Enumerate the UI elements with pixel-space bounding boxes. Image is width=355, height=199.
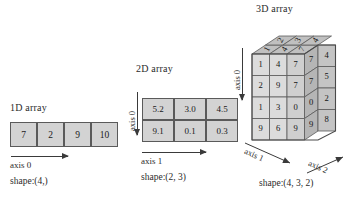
- svg-text:4: 4: [325, 50, 330, 60]
- array-3d-shape-label: shape:(4, 3, 2): [259, 178, 313, 188]
- svg-text:0: 0: [294, 102, 298, 112]
- svg-text:7: 7: [309, 54, 314, 64]
- svg-text:1: 1: [259, 102, 263, 112]
- svg-text:2: 2: [325, 93, 329, 103]
- svg-text:7: 7: [294, 80, 299, 90]
- svg-text:5: 5: [325, 71, 329, 81]
- svg-text:7: 7: [309, 76, 314, 86]
- svg-text:9: 9: [309, 119, 313, 129]
- svg-text:3: 3: [276, 102, 280, 112]
- svg-text:9: 9: [276, 80, 280, 90]
- svg-text:4: 4: [276, 59, 281, 69]
- svg-text:2: 2: [259, 80, 263, 90]
- array-3d-cube: 12437414729713096977094528: [0, 0, 355, 199]
- svg-text:9: 9: [294, 123, 298, 133]
- figure-canvas: 1D array 7 2 9 10 axis 0 shape:(4,) 2D a…: [0, 0, 355, 199]
- svg-text:9: 9: [259, 123, 263, 133]
- svg-text:6: 6: [276, 123, 281, 133]
- svg-text:1: 1: [259, 59, 263, 69]
- svg-text:7: 7: [294, 59, 299, 69]
- svg-text:0: 0: [309, 97, 313, 107]
- svg-text:8: 8: [325, 114, 329, 124]
